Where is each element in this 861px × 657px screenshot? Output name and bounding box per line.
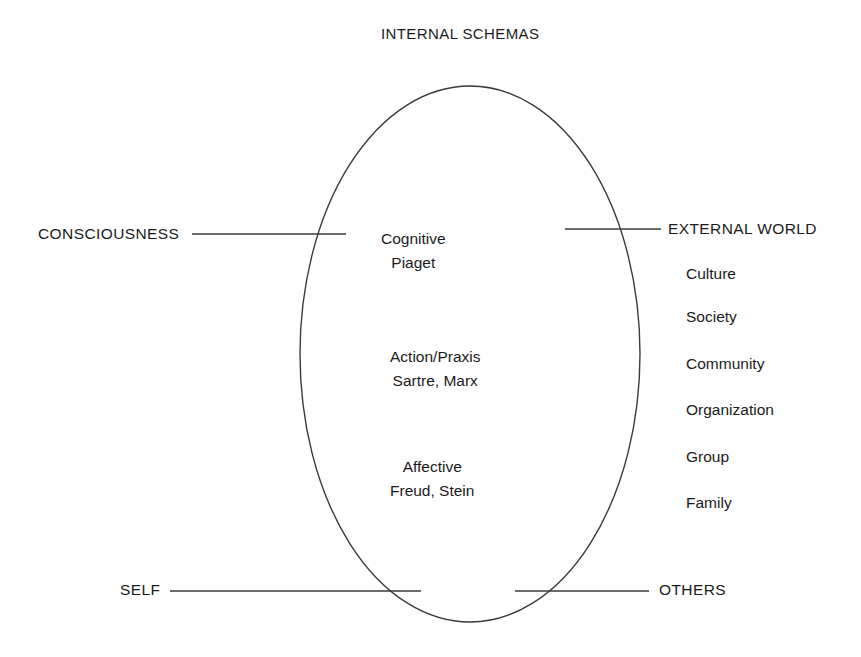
pole-label-external-world: EXTERNAL WORLD [668,220,817,238]
schema-group-affective: Affective Freud, Stein [390,455,474,503]
external-level-family: Family [686,494,732,512]
diagram-drawing [0,0,861,657]
schema-group-cognitive: Cognitive Piaget [381,227,446,275]
schema-thinkers: Piaget [381,251,446,275]
schema-domain: Affective [403,458,462,475]
diagram-canvas: INTERNAL SCHEMAS CONSCIOUSNESS EXTERNAL … [0,0,861,657]
schema-thinkers: Freud, Stein [390,479,474,503]
schema-thinkers: Sartre, Marx [390,369,480,393]
schema-domain: Cognitive [381,230,446,247]
external-level-culture: Culture [686,265,736,283]
schema-group-action-praxis: Action/Praxis Sartre, Marx [390,345,480,393]
pole-label-self: SELF [120,581,160,599]
diagram-title: INTERNAL SCHEMAS [381,25,539,42]
external-level-community: Community [686,355,764,373]
schema-domain: Action/Praxis [390,348,480,365]
external-level-organization: Organization [686,401,774,419]
external-level-society: Society [686,308,737,326]
pole-label-consciousness: CONSCIOUSNESS [38,225,179,243]
external-level-group: Group [686,448,729,466]
pole-label-others: OTHERS [659,581,726,599]
